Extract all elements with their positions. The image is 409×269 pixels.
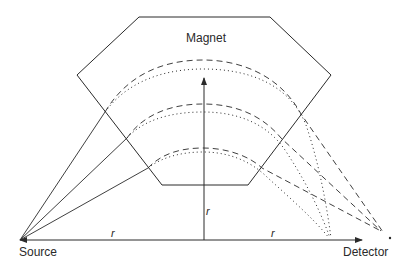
trajectory-outer-dotted [105, 69, 331, 238]
trajectory-outer-dashed [105, 60, 383, 232]
radius-label-vertical: r [206, 205, 211, 217]
trajectory-inner-dotted [148, 152, 329, 238]
detector-label: Detector [343, 245, 388, 259]
source-label: Source [19, 245, 57, 259]
radius-label-right: r [271, 227, 276, 239]
focal-point-dot [389, 237, 391, 239]
trajectory-middle-dotted [127, 112, 330, 238]
magnet-label: Magnet [186, 31, 227, 45]
source-rays [20, 112, 148, 240]
radius-label-left: r [111, 227, 116, 239]
dotted-trajectories [105, 69, 331, 238]
dashed-trajectories [105, 60, 383, 232]
mass-spectrometer-diagram: Magnet Source Detector r r r [0, 0, 409, 269]
source-ray-outer [20, 112, 105, 240]
trajectory-inner-dashed [148, 148, 379, 230]
trajectory-middle-dashed [127, 104, 381, 231]
